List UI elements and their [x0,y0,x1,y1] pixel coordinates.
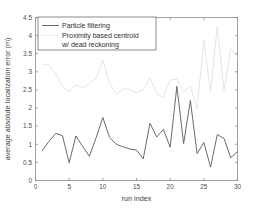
y-axis-tick-label: 0 [28,177,32,184]
y-axis-tick-label: 0.5 [23,159,32,166]
x-axis-tick-label: 10 [99,183,107,190]
legend-label-particle-filtering: Particle filtering [62,22,110,30]
x-axis-tick-label: 5 [67,183,71,190]
x-axis-tick-label: 25 [200,183,208,190]
x-axis-label: run index [122,194,152,203]
y-axis-tick-label: 3 [28,68,32,75]
y-axis-label: average absolute localization error (m) [3,38,12,161]
y-axis-tick-label: 2.5 [23,86,32,93]
legend-label-dead-reckoning: w/ dead reckoning [61,41,119,49]
y-axis-tick-label: 1 [28,141,32,148]
chart-figure: 00.511.522.533.544.5 051015202530 run in… [0,0,255,214]
x-axis-tick-label: 30 [234,183,242,190]
x-axis-tick-label: 0 [34,183,38,190]
x-axis-tick-label: 20 [167,183,175,190]
x-axis-tick-label: 15 [133,183,141,190]
y-axis-tick-label: 3.5 [23,50,32,57]
legend-label-proximity-centroid: Proximity based centroid [62,32,139,40]
chart-legend: Particle filtering Proximity based centr… [38,17,156,50]
y-axis-tick-label: 4.5 [23,14,32,21]
y-axis-tick-label: 1.5 [23,122,32,129]
y-axis-tick-label: 4 [28,32,32,39]
data-series-line [42,86,237,167]
chart-plot-area: 00.511.522.533.544.5 051015202530 run in… [0,0,255,214]
y-axis-tick-label: 2 [28,104,32,111]
